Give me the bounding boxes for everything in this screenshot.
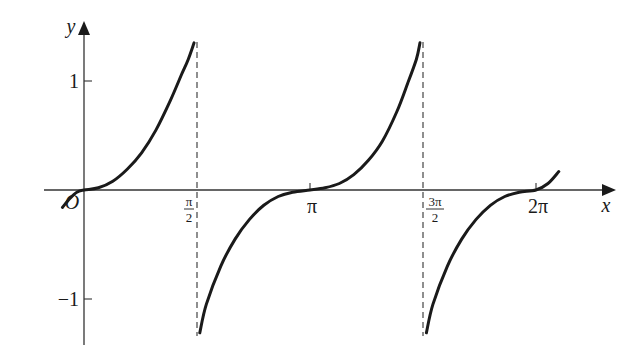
x-tick-label: 2π bbox=[528, 195, 548, 217]
y-axis-arrow-icon bbox=[78, 21, 90, 35]
axis-labels: yxO1−1π2π3π22π bbox=[58, 15, 611, 310]
origin-label: O bbox=[65, 191, 79, 213]
x-tick-label-numerator: 3π bbox=[428, 194, 442, 209]
x-axis-label: x bbox=[601, 194, 611, 216]
function-graph: yxO1−1π2π3π22π bbox=[0, 0, 638, 353]
x-tick-label-denominator: 2 bbox=[186, 210, 193, 225]
axes bbox=[44, 21, 616, 345]
curves bbox=[62, 43, 558, 333]
y-axis-label: y bbox=[65, 15, 76, 38]
curve-branch-1 bbox=[62, 43, 194, 208]
x-tick-label: π bbox=[307, 195, 317, 217]
y-tick-label: 1 bbox=[69, 70, 79, 92]
x-tick-label-numerator: π bbox=[186, 194, 193, 209]
y-tick-label: −1 bbox=[58, 288, 79, 310]
x-tick-label-denominator: 2 bbox=[432, 210, 439, 225]
